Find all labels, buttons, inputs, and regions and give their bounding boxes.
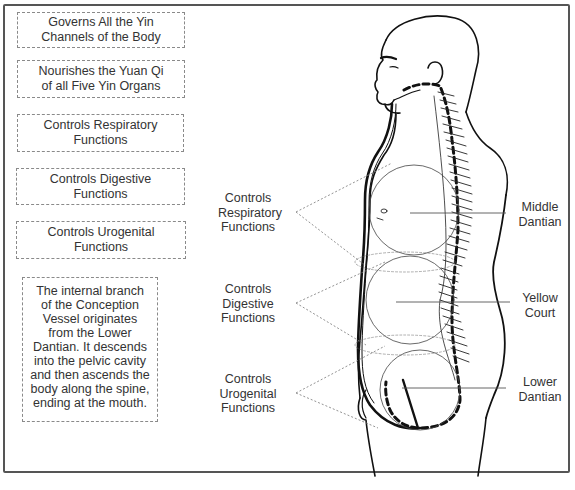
label-yellow-court: Yellow Court: [515, 291, 565, 320]
pointer-lines: [296, 163, 392, 428]
label-text: Digestive: [218, 297, 278, 312]
lower-dantian-circle: [380, 350, 460, 430]
label-text: Middle: [515, 200, 565, 215]
face-profile: [375, 40, 394, 105]
label-text: Controls: [218, 191, 278, 206]
label-text: Yellow: [515, 291, 565, 306]
body-figure-illustration: [0, 0, 575, 490]
label-text: Respiratory: [218, 206, 278, 221]
label-text: Functions: [218, 401, 278, 416]
label-controls-respiratory: Controls Respiratory Functions: [218, 191, 278, 235]
label-text: Urogenital: [218, 387, 278, 402]
middle-dantian-circle: [369, 165, 459, 255]
internal-branch-dashed: [386, 84, 460, 428]
label-text: Controls: [218, 372, 278, 387]
label-lower-dantian: Lower Dantian: [515, 375, 565, 404]
label-text: Functions: [218, 220, 278, 235]
label-text: Controls: [218, 282, 278, 297]
label-controls-urogenital: Controls Urogenital Functions: [218, 372, 278, 416]
label-text: Lower: [515, 375, 565, 390]
label-middle-dantian: Middle Dantian: [515, 200, 565, 229]
label-text: Dantian: [515, 390, 565, 405]
ear: [428, 62, 443, 84]
label-text: Court: [515, 306, 565, 321]
label-text: Dantian: [515, 215, 565, 230]
label-controls-digestive: Controls Digestive Functions: [218, 282, 278, 326]
label-text: Functions: [218, 311, 278, 326]
conception-vessel-front: [358, 104, 420, 428]
